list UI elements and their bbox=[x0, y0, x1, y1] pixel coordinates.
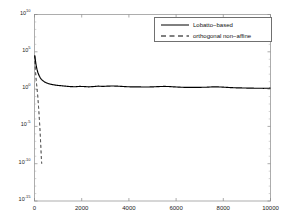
y-tick-label-4: 10-10 bbox=[19, 160, 31, 166]
x-tick-label-1: 2000 bbox=[62, 205, 102, 211]
legend-item-orthogonal-non-affine: orthogonal non−affine bbox=[155, 30, 271, 41]
legend-label-orthogonal-non-affine: orthogonal non−affine bbox=[193, 33, 251, 39]
x-tick-label-2: 4000 bbox=[109, 205, 149, 211]
legend-line-sample-solid bbox=[160, 20, 190, 30]
legend-label-lobatto-based: Lobatto−based bbox=[193, 22, 233, 28]
x-tick-label-0: 0 bbox=[15, 205, 55, 211]
chart-legend: Lobatto−based orthogonal non−affine bbox=[154, 17, 272, 42]
x-tick-label-4: 8000 bbox=[203, 205, 243, 211]
y-tick-label-3: 10-5 bbox=[21, 122, 31, 128]
x-tick-label-5: 10000 bbox=[251, 205, 284, 211]
figure-canvas: 101010510010-510-1010-15 020004000600080… bbox=[0, 0, 283, 224]
legend-item-lobatto-based: Lobatto−based bbox=[155, 19, 271, 30]
y-tick-label-0: 1010 bbox=[20, 11, 31, 17]
y-tick-label-5: 10-15 bbox=[19, 197, 31, 203]
y-tick-label-1: 105 bbox=[22, 48, 30, 54]
axes-frame bbox=[35, 15, 271, 202]
legend-line-sample-dashed bbox=[160, 31, 190, 41]
y-tick-label-2: 100 bbox=[22, 85, 30, 91]
x-tick-label-3: 6000 bbox=[156, 205, 196, 211]
